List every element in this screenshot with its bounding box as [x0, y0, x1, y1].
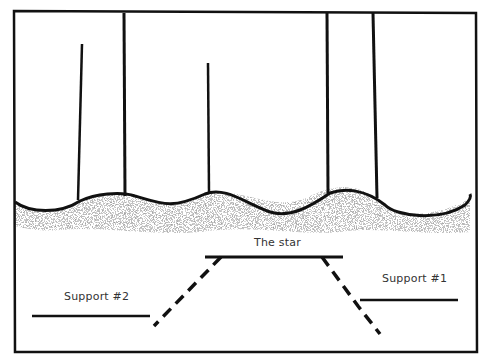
curtain-fold-1 [78, 44, 82, 200]
star-label: The star [254, 236, 301, 249]
support-2-label: Support #2 [64, 290, 129, 303]
hand-drawn-diagram: The star Support #1 Support #2 [0, 0, 481, 363]
diagram-canvas [0, 0, 481, 363]
shaded-ground-band [15, 187, 470, 233]
curtain-fold-5 [373, 13, 377, 198]
curtain-fold-4 [327, 13, 328, 193]
right-dashed-ramp [322, 257, 380, 334]
curtain-fold-3 [208, 63, 209, 193]
support-1-label: Support #1 [382, 272, 447, 285]
curtain-fold-2 [124, 13, 125, 196]
left-dashed-ramp [154, 257, 221, 326]
